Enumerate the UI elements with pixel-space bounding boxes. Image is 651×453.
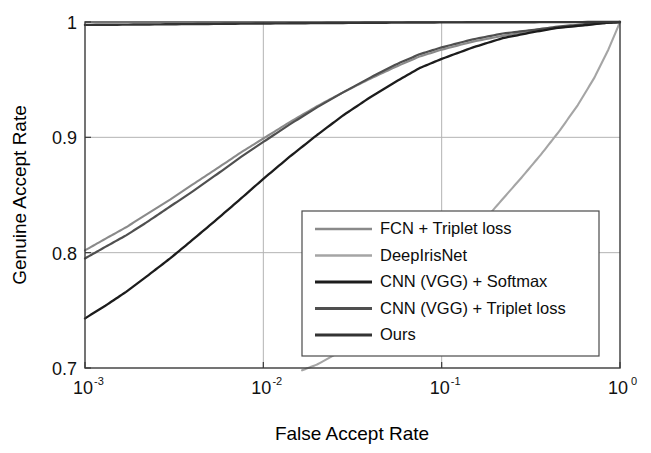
legend-label: CNN (VGG) + Triplet loss [380, 299, 566, 317]
legend-label: DeepIrisNet [380, 246, 468, 264]
y-tick-label: 0.7 [52, 359, 77, 379]
x-tick-label: 10-2 [251, 375, 282, 398]
svg-text:10: 10 [73, 378, 93, 398]
x-tick-label: 10-3 [73, 375, 104, 398]
y-axis-title: Genuine Accept Rate [9, 105, 30, 285]
svg-text:10: 10 [430, 378, 450, 398]
svg-text:0: 0 [631, 375, 637, 387]
y-tick-label: 1 [67, 13, 77, 33]
y-tick-label: 0.9 [52, 128, 77, 148]
roc-chart-svg: 0.70.80.91 10-310-210-1100 False Accept … [0, 0, 651, 453]
x-axis-title: False Accept Rate [275, 423, 429, 444]
svg-text:-3: -3 [94, 375, 104, 387]
svg-text:-2: -2 [272, 375, 282, 387]
roc-figure: 0.70.80.91 10-310-210-1100 False Accept … [0, 0, 651, 453]
y-tick-label: 0.8 [52, 244, 77, 264]
x-tick-label: 10-1 [430, 375, 461, 398]
svg-text:-1: -1 [451, 375, 461, 387]
svg-text:10: 10 [251, 378, 271, 398]
x-tick-label: 100 [608, 375, 637, 398]
svg-text:10: 10 [608, 378, 628, 398]
legend-label: Ours [380, 325, 416, 343]
legend-label: FCN + Triplet loss [380, 219, 512, 237]
legend-label: CNN (VGG) + Softmax [380, 272, 548, 290]
legend[interactable]: FCN + Triplet lossDeepIrisNetCNN (VGG) +… [302, 211, 599, 356]
